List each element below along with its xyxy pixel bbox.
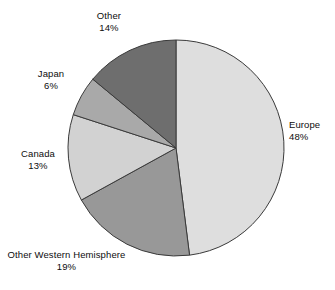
slice-label-other-value: 14% (83, 22, 135, 34)
slice-label-europe: Europe 48% (289, 119, 320, 142)
slice-label-europe-name: Europe (289, 119, 320, 131)
slice-label-canada-name: Canada (11, 148, 65, 160)
slice-label-japan: Japan 6% (27, 68, 75, 91)
slice-label-other-western-hemisphere-value: 19% (4, 261, 129, 273)
pie-chart-canvas (0, 0, 335, 290)
slice-label-other-western-hemisphere: Other Western Hemisphere 19% (4, 249, 129, 272)
pie-slices-group (68, 40, 284, 256)
slice-label-japan-name: Japan (27, 68, 75, 80)
slice-label-europe-value: 48% (289, 131, 320, 143)
slice-label-canada: Canada 13% (11, 148, 65, 171)
slice-label-other-name: Other (83, 10, 135, 22)
slice-label-other: Other 14% (83, 10, 135, 33)
slice-label-other-western-hemisphere-name: Other Western Hemisphere (4, 249, 129, 261)
slice-label-japan-value: 6% (27, 80, 75, 92)
slice-label-canada-value: 13% (11, 160, 65, 172)
pie-slice-europe (176, 40, 284, 255)
pie-chart: Europe 48% Other Western Hemisphere 19% … (0, 0, 335, 290)
